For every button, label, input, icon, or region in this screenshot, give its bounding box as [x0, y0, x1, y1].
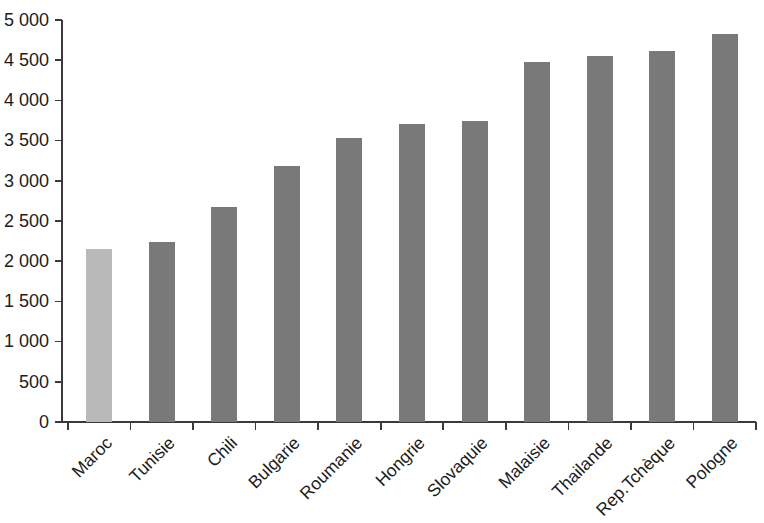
- chart-canvas: 05001 0001 5002 0002 5003 0003 5004 0004…: [0, 0, 764, 523]
- bar: [649, 51, 675, 422]
- bar: [149, 242, 175, 422]
- y-axis-tick-label: 2 000: [4, 251, 49, 271]
- y-axis-tick-label: 3 500: [4, 130, 49, 150]
- bar: [86, 249, 112, 422]
- bar: [211, 207, 237, 422]
- bar: [336, 138, 362, 422]
- bar: [399, 124, 425, 422]
- bar-chart: 05001 0001 5002 0002 5003 0003 5004 0004…: [0, 0, 764, 523]
- y-axis-tick-label: 4 500: [4, 50, 49, 70]
- bar: [524, 62, 550, 422]
- y-axis-tick-label: 0: [39, 412, 49, 432]
- y-axis-tick-label: 1 500: [4, 291, 49, 311]
- y-axis-tick-label: 3 000: [4, 171, 49, 191]
- y-axis-tick-label: 2 500: [4, 211, 49, 231]
- y-axis-tick-label: 5 000: [4, 10, 49, 30]
- y-axis-tick-label: 1 000: [4, 331, 49, 351]
- bar: [274, 166, 300, 422]
- bar: [712, 34, 738, 422]
- y-axis-tick-label: 4 000: [4, 90, 49, 110]
- bar: [587, 56, 613, 422]
- bar: [462, 121, 488, 422]
- y-axis-tick-label: 500: [19, 372, 49, 392]
